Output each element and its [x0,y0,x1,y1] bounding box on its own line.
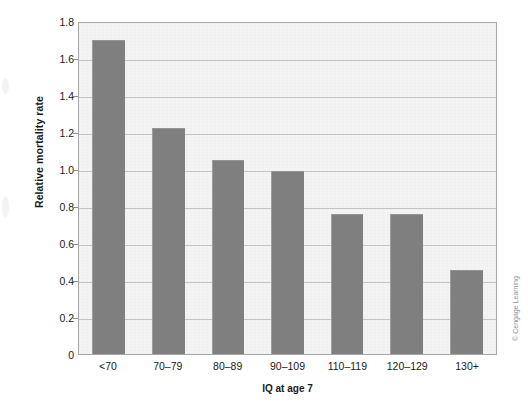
bar-slot [258,23,318,354]
x-tick-label: 90–109 [258,360,318,372]
y-tick-label: 1.8 [34,17,74,28]
bar[interactable] [152,128,185,354]
y-axis-ticks: 00.20.40.60.81.01.21.41.61.8 [0,0,78,420]
x-axis-title: IQ at age 7 [78,383,497,394]
y-tick-label: 1.4 [34,91,74,102]
bar[interactable] [390,214,423,354]
copyright-credit: © Cengage Learning [512,249,519,369]
x-tick-label: <70 [78,360,138,372]
x-tick-label: 120–129 [377,360,437,372]
y-tick-label: 0.2 [34,313,74,324]
x-tick-label: 110–119 [317,360,377,372]
x-axis-tick-labels: <7070–7980–8990–109110–119120–129130+ [78,360,497,372]
bar[interactable] [450,270,483,354]
figure-container: Relative mortality rate 00.20.40.60.81.0… [0,0,528,420]
y-tick-label: 0.4 [34,276,74,287]
bar-slot [79,23,139,354]
y-tick-label: 0.8 [34,202,74,213]
bar[interactable] [212,160,245,354]
bar-slot [317,23,377,354]
bar-slot [198,23,258,354]
plot-area [78,22,497,355]
bar-slot [377,23,437,354]
x-tick-label: 80–89 [198,360,258,372]
y-tick-label: 0 [34,350,74,361]
bar-series [79,23,496,354]
bar[interactable] [92,40,125,355]
bar-slot [139,23,199,354]
y-tick-label: 0.6 [34,239,74,250]
y-tick-label: 1.0 [34,165,74,176]
x-tick-label: 70–79 [138,360,198,372]
bar[interactable] [331,214,364,354]
y-tick-label: 1.6 [34,54,74,65]
bar[interactable] [271,171,304,354]
y-tick-label: 1.2 [34,128,74,139]
x-tick-label: 130+ [437,360,497,372]
bar-slot [436,23,496,354]
